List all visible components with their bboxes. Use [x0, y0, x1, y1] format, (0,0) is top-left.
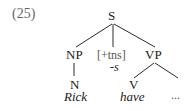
- word-have: have: [120, 90, 145, 103]
- ellipsis-node: ...: [171, 89, 180, 101]
- edge-vp-v: [134, 63, 154, 78]
- node-vp: VP: [145, 48, 162, 61]
- tense-suffix: -s: [110, 61, 119, 73]
- edge-s-np: [76, 24, 112, 47]
- node-np: NP: [66, 48, 83, 61]
- edge-vp-ellipsis: [155, 63, 178, 78]
- node-s: S: [108, 9, 115, 22]
- edge-s-vp: [114, 24, 155, 47]
- word-rick: Rick: [64, 90, 87, 103]
